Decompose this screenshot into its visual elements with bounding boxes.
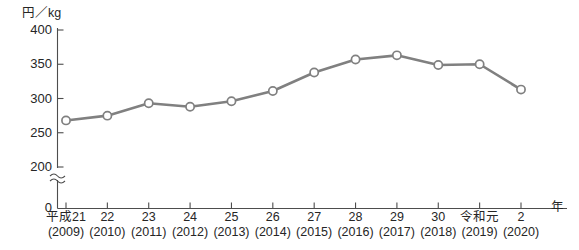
y-tick-label: 250 — [18, 125, 52, 140]
data-point-marker — [476, 60, 484, 68]
data-point-markers — [62, 51, 525, 124]
data-point-marker — [310, 68, 318, 76]
y-axis-break-icon — [50, 174, 65, 183]
data-point-marker — [145, 99, 153, 107]
y-axis-ticks — [58, 30, 64, 167]
data-point-marker — [62, 116, 70, 124]
y-tick-label: 350 — [18, 56, 52, 71]
data-point-marker — [434, 61, 442, 69]
data-point-marker — [186, 103, 194, 111]
data-point-marker — [103, 112, 111, 120]
data-point-marker — [227, 97, 235, 105]
x-tick-label-gregorian: (2020) — [492, 225, 550, 240]
data-point-marker — [517, 85, 525, 93]
y-tick-label: 200 — [18, 159, 52, 174]
x-tick-label-group: 2(2020) — [492, 210, 550, 240]
data-point-marker — [269, 87, 277, 95]
x-tick-label-era: 2 — [492, 210, 550, 225]
x-axis-ticks — [66, 203, 521, 209]
y-tick-label: 400 — [18, 22, 52, 37]
line-chart: 円／kg 2002503003504000 平成21(2009)22(2010)… — [0, 0, 579, 250]
data-point-marker — [393, 51, 401, 59]
data-series-line — [66, 55, 521, 120]
y-tick-label: 300 — [18, 91, 52, 106]
x-axis-unit-label: 年 — [551, 196, 564, 215]
data-point-marker — [351, 55, 359, 63]
